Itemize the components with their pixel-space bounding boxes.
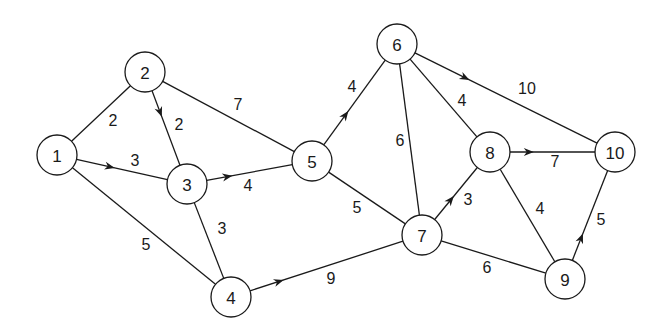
edge-6-10 xyxy=(415,53,597,143)
edge-weight-label: 6 xyxy=(396,132,405,149)
node-8: 8 xyxy=(470,132,510,172)
edge-6-8 xyxy=(410,59,477,137)
edge-weight-label: 4 xyxy=(536,200,545,217)
node-label: 5 xyxy=(307,153,316,172)
edge-weight-label: 3 xyxy=(464,191,473,208)
node-10: 10 xyxy=(595,132,635,172)
edge-7-9 xyxy=(441,241,546,273)
edge-weight-label: 7 xyxy=(551,153,560,170)
edge-weight-label: 4 xyxy=(348,78,357,95)
edge-weight-label: 3 xyxy=(218,220,227,237)
edge-weight-label: 9 xyxy=(327,270,336,287)
arrowhead-icon xyxy=(339,111,348,121)
edge-1-3 xyxy=(77,159,168,179)
node-label: 8 xyxy=(485,144,494,163)
edge-weight-label: 5 xyxy=(353,199,362,216)
edge-weight-label: 5 xyxy=(142,236,151,253)
edge-weight-label: 4 xyxy=(244,177,253,194)
node-5: 5 xyxy=(292,141,332,181)
edge-weight-label: 2 xyxy=(175,116,184,133)
arrowhead-icon xyxy=(444,196,453,206)
edge-3-4 xyxy=(194,203,223,279)
node-label: 9 xyxy=(560,271,569,290)
edge-weight-label: 3 xyxy=(131,152,140,169)
node-label: 7 xyxy=(417,227,426,246)
node-label: 1 xyxy=(52,147,61,166)
node-label: 10 xyxy=(606,144,625,163)
edge-weight-label: 5 xyxy=(597,211,606,228)
graph-svg: 2352743945641036745 12345678910 xyxy=(0,0,667,327)
edge-weight-label: 10 xyxy=(518,80,536,97)
edge-5-7 xyxy=(329,172,406,224)
network-graph-diagram: 2352743945641036745 12345678910 xyxy=(0,0,667,327)
edge-1-2 xyxy=(72,86,131,142)
node-9: 9 xyxy=(545,259,585,299)
edge-weight-label: 2 xyxy=(109,112,118,129)
node-2: 2 xyxy=(125,52,165,92)
edge-weight-label: 6 xyxy=(483,259,492,276)
node-1: 1 xyxy=(37,135,77,175)
node-label: 4 xyxy=(226,289,235,308)
edge-8-9 xyxy=(500,169,555,262)
node-4: 4 xyxy=(211,277,251,317)
node-label: 6 xyxy=(392,36,401,55)
node-label: 3 xyxy=(182,176,191,195)
edge-weight-label: 4 xyxy=(458,92,467,109)
edge-5-6 xyxy=(324,60,385,145)
edge-weight-label: 7 xyxy=(234,96,243,113)
node-6: 6 xyxy=(377,24,417,64)
node-label: 2 xyxy=(140,64,149,83)
node-7: 7 xyxy=(402,215,442,255)
node-3: 3 xyxy=(167,164,207,204)
